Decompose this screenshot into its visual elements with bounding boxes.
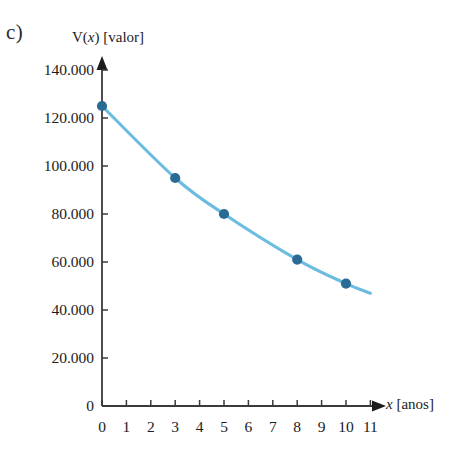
data-markers-group <box>97 101 351 289</box>
y-axis-arrow-icon <box>97 56 108 70</box>
x-axis-arrow-icon <box>372 401 386 412</box>
y-axis-tick-label: 100.000 <box>16 158 94 174</box>
y-axis-tick-label: 0 <box>16 398 94 414</box>
y-axis-tick-label: 80.000 <box>16 206 94 222</box>
data-point-marker <box>341 279 351 289</box>
data-point-marker <box>97 101 107 111</box>
axes-group <box>97 56 387 412</box>
data-curve <box>102 106 370 293</box>
data-point-marker <box>219 209 229 219</box>
x-axis-tick-label: 11 <box>355 419 385 435</box>
y-axis-tick-label: 20.000 <box>16 350 94 366</box>
y-axis-tick-label: 120.000 <box>16 110 94 126</box>
data-point-marker <box>292 255 302 265</box>
y-axis-tick-label: 40.000 <box>16 302 94 318</box>
data-point-marker <box>170 173 180 183</box>
figure-container: c) V(x) [valor] x [anos] 020.00040.00060… <box>0 0 454 453</box>
y-axis-tick-label: 60.000 <box>16 254 94 270</box>
y-axis-tick-label: 140.000 <box>16 62 94 78</box>
